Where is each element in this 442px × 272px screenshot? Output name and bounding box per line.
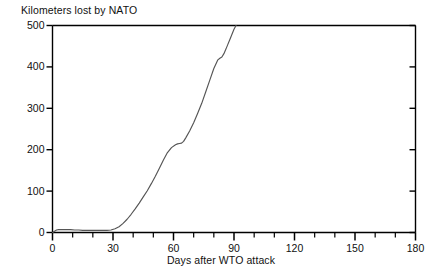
x-tick-label: 0 — [33, 242, 73, 254]
x-tick-label: 150 — [335, 242, 375, 254]
y-tick-label: 0 — [9, 226, 45, 238]
data-line-series-0 — [53, 26, 237, 233]
x-tick-label: 120 — [275, 242, 315, 254]
x-tick-label: 30 — [93, 242, 133, 254]
y-tick-label: 100 — [9, 185, 45, 197]
x-tick-label: 60 — [154, 242, 194, 254]
y-tick-label: 500 — [9, 19, 45, 31]
y-tick-label: 300 — [9, 102, 45, 114]
x-axis-title: Days after WTO attack — [0, 254, 442, 266]
y-tick-label: 200 — [9, 143, 45, 155]
plot-canvas — [0, 0, 442, 272]
y-tick-label: 400 — [9, 60, 45, 72]
x-tick-label: 90 — [214, 242, 254, 254]
chart-figure: Kilometers lost by NATO Days after WTO a… — [0, 0, 442, 272]
x-tick-label: 180 — [396, 242, 436, 254]
